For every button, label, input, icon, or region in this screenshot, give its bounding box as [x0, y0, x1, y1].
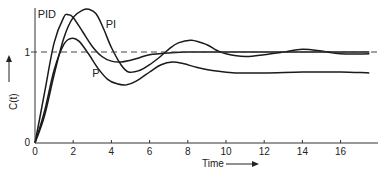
series-pi-line [35, 9, 369, 143]
series-p-label: P [92, 67, 99, 79]
series-pi-label: PI [106, 18, 116, 30]
y-tick-label: 0 [24, 137, 30, 148]
y-axis-arrow-icon [6, 55, 12, 62]
y-axis-title: C(t) [8, 93, 19, 110]
curves-group [35, 9, 369, 143]
x-tick-label: 12 [259, 146, 271, 157]
series-pid-label: PID [38, 8, 56, 20]
x-tick-label: 2 [70, 146, 76, 157]
x-tick-label: 8 [185, 146, 191, 157]
x-tick-label: 6 [147, 146, 153, 157]
y-tick-label: 1 [24, 47, 30, 58]
x-axis-title: Time [202, 158, 224, 169]
step-response-chart: 0246810121416 01 PIDPIP Time C(t) [0, 0, 385, 174]
y-ticks: 01 [24, 47, 30, 148]
series-pid-line [35, 14, 369, 143]
x-tick-label: 0 [32, 146, 38, 157]
x-tick-label: 16 [335, 146, 347, 157]
series-p-line [35, 38, 369, 143]
x-tick-label: 4 [109, 146, 115, 157]
x-tick-label: 10 [220, 146, 232, 157]
x-tick-label: 14 [297, 146, 309, 157]
y-axis-title-group: C(t) [8, 93, 19, 110]
x-axis-arrow-icon [252, 161, 259, 167]
